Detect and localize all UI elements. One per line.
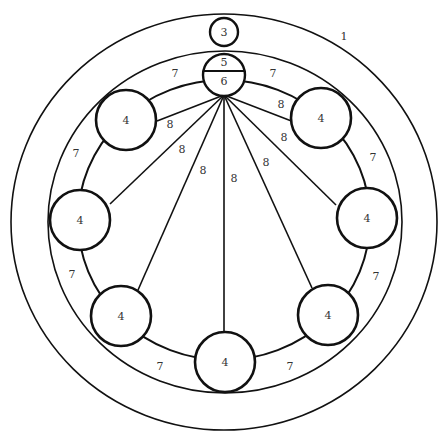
node-4: 4 (337, 188, 397, 248)
node-label: 4 (318, 112, 325, 125)
node-label: 4 (222, 356, 229, 369)
outer-ring-label: 1 (341, 30, 348, 43)
spoke-label: 8 (167, 118, 174, 131)
node-4: 4 (96, 90, 156, 150)
spoke-label: 8 (278, 98, 285, 111)
spoke-label: 8 (200, 164, 207, 177)
node-4: 4 (91, 286, 151, 346)
node-label: 4 (77, 214, 84, 227)
arc-label: 7 (373, 270, 380, 283)
spoke-label: 8 (281, 131, 288, 144)
arc-label: 7 (370, 151, 377, 164)
arc-label: 7 (287, 360, 294, 373)
ring-diagram: 4444444 3 56 1 888888877777777 (0, 0, 448, 433)
arc-label: 7 (73, 147, 80, 160)
arc-label: 7 (157, 360, 164, 373)
spoke-label: 8 (179, 143, 186, 156)
arc-label: 7 (69, 268, 76, 281)
node-label: 4 (325, 309, 332, 322)
node-label: 4 (364, 212, 371, 225)
node-label: 4 (118, 310, 125, 323)
hub-top-label: 5 (221, 56, 228, 69)
node-label: 4 (123, 114, 130, 127)
node-4: 4 (195, 332, 255, 392)
arc-label: 7 (172, 67, 179, 80)
node-4: 4 (50, 190, 110, 250)
top-node-label: 3 (221, 26, 228, 39)
hub-bottom-label: 6 (221, 75, 228, 88)
node-4: 4 (298, 285, 358, 345)
spoke-label: 8 (231, 172, 238, 185)
arc-label: 7 (270, 67, 277, 80)
hub-node-5-6: 56 (203, 54, 245, 96)
spoke-label: 8 (263, 156, 270, 169)
node-4: 4 (291, 88, 351, 148)
